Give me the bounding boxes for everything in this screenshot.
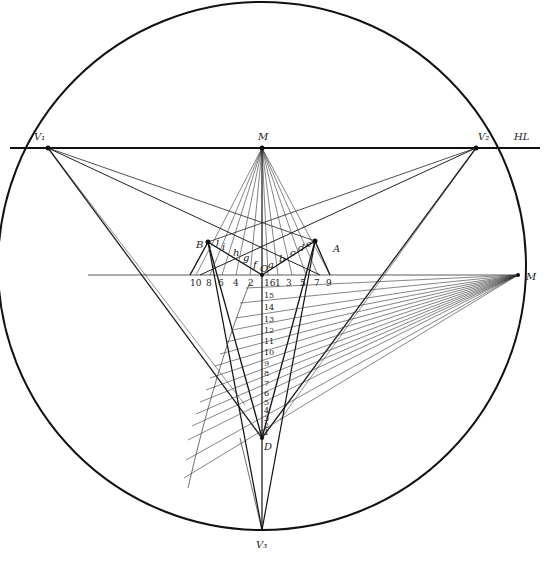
svg-text:j: j [214,236,219,247]
svg-text:4: 4 [233,278,239,288]
label-v1: V₁ [34,131,45,142]
label-m-right: M [525,271,537,282]
label-v3: V₃ [256,539,267,550]
svg-text:14: 14 [264,303,274,312]
svg-text:h: h [233,247,239,258]
svg-text:f: f [252,259,259,270]
svg-text:5: 5 [300,278,306,288]
svg-text:3: 3 [286,278,292,288]
svg-text:e: e [306,238,312,249]
baseline-numbers: 10 8 6 4 2 16 1 3 5 7 9 [190,278,332,288]
point-markers [46,146,521,441]
label-b: B [195,239,203,250]
label-d: D [263,441,272,452]
svg-text:7: 7 [264,379,269,388]
svg-text:6: 6 [218,278,224,288]
svg-text:10: 10 [264,348,274,357]
svg-text:13: 13 [264,315,274,324]
svg-text:2: 2 [248,278,254,288]
svg-text:10: 10 [190,278,202,288]
svg-text:7: 7 [314,278,320,288]
svg-text:9: 9 [264,359,269,368]
label-a: A [332,243,340,254]
label-v2: V₂ [478,131,489,142]
svg-text:16: 16 [264,278,276,288]
svg-text:g: g [243,252,249,263]
svg-text:i: i [222,241,225,252]
svg-text:8: 8 [264,369,269,378]
svg-text:15: 15 [264,291,274,300]
label-m-top: M [257,131,269,142]
label-o: O [260,263,268,274]
label-hl: HL [513,131,530,142]
svg-text:6: 6 [264,389,269,398]
svg-text:11: 11 [264,337,274,346]
svg-text:a: a [268,259,274,270]
svg-text:9: 9 [326,278,332,288]
svg-text:c: c [290,247,296,258]
svg-text:b: b [279,253,285,264]
svg-text:d: d [298,242,304,253]
perspective-diagram: V₁ V₂ HL M M B A O D V₃ a b c d e f g h … [0,0,549,565]
svg-text:8: 8 [206,278,212,288]
m-top-fan [196,148,330,275]
svg-text:1: 1 [264,428,269,437]
svg-text:1: 1 [275,278,281,288]
svg-text:12: 12 [264,326,274,335]
m-right-fan [184,275,518,478]
